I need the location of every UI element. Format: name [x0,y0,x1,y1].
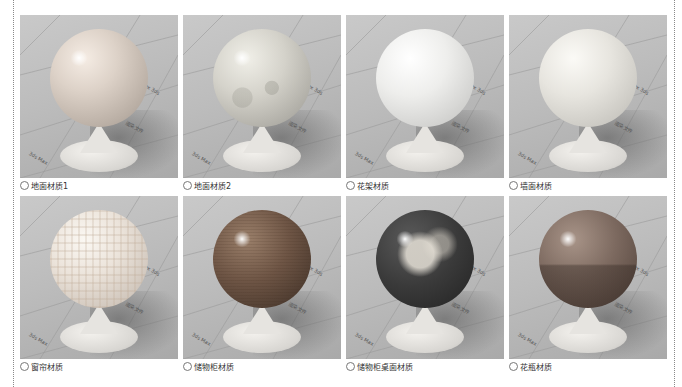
material-caption: 地面材质2 [183,178,341,192]
circle-marker-icon [346,362,355,371]
material-card: 3ds Max Max 3ds 渲染文件 储物柜桌面材质 [346,196,504,373]
material-sphere [539,210,637,308]
material-card: 3ds Max Max 3ds 渲染文件 花架材质 [346,15,504,192]
material-caption: 花架材质 [346,178,504,192]
material-caption: 墙面材质 [509,178,667,192]
material-card: 3ds Max Max 3ds 渲染文件 窗帘材质 [20,196,178,373]
material-render: 3ds Max Max 3ds 渲染文件 [20,15,178,178]
left-dotted-margin [13,0,14,387]
material-sphere [539,29,637,127]
material-render: 3ds Max Max 3ds 渲染文件 [509,196,667,359]
circle-marker-icon [346,181,355,190]
caption-label: 储物柜桌面材质 [357,361,413,372]
material-render: 3ds Max Max 3ds 渲染文件 [509,15,667,178]
material-caption: 地面材质1 [20,178,178,192]
material-card: 3ds Max Max 3ds 渲染文件 储物柜材质 [183,196,341,373]
stand-neck [406,304,444,334]
circle-marker-icon [20,362,29,371]
material-sphere [50,210,148,308]
circle-marker-icon [183,181,192,190]
caption-label: 花瓶材质 [520,361,552,372]
material-sphere [376,210,474,308]
material-render: 3ds Max Max 3ds 渲染文件 [346,196,504,359]
caption-label: 地面材质1 [31,180,68,191]
stand-neck [569,304,607,334]
caption-label: 花架材质 [357,180,389,191]
specular-highlight [559,231,577,247]
caption-label: 储物柜材质 [194,361,234,372]
material-card: 3ds Max Max 3ds 渲染文件 墙面材质 [509,15,667,192]
material-caption: 窗帘材质 [20,359,178,373]
material-grid: 3ds Max Max 3ds 渲染文件 地面材质1 3ds Max Max 3… [20,15,668,373]
material-card: 3ds Max Max 3ds 渲染文件 花瓶材质 [509,196,667,373]
circle-marker-icon [509,181,518,190]
right-dotted-margin [674,0,675,387]
stand-neck [80,123,118,153]
specular-highlight [70,50,88,66]
material-card: 3ds Max Max 3ds 渲染文件 地面材质1 [20,15,178,192]
circle-marker-icon [183,362,192,371]
material-card: 3ds Max Max 3ds 渲染文件 地面材质2 [183,15,341,192]
material-sphere [213,29,311,127]
material-caption: 储物柜材质 [183,359,341,373]
circle-marker-icon [509,362,518,371]
material-sphere [376,29,474,127]
caption-label: 窗帘材质 [31,361,63,372]
material-sphere [213,210,311,308]
stand-neck [406,123,444,153]
material-caption: 储物柜桌面材质 [346,359,504,373]
material-sphere [50,29,148,127]
material-caption: 花瓶材质 [509,359,667,373]
material-render: 3ds Max Max 3ds 渲染文件 [183,196,341,359]
stand-neck [80,304,118,334]
material-render: 3ds Max Max 3ds 渲染文件 [183,15,341,178]
stand-neck [569,123,607,153]
specular-highlight [233,231,251,247]
circle-marker-icon [20,181,29,190]
specular-highlight [396,231,414,247]
stand-neck [243,123,281,153]
caption-label: 墙面材质 [520,180,552,191]
specular-highlight [233,50,251,66]
stand-neck [243,304,281,334]
caption-label: 地面材质2 [194,180,231,191]
material-render: 3ds Max Max 3ds 渲染文件 [20,196,178,359]
material-render: 3ds Max Max 3ds 渲染文件 [346,15,504,178]
